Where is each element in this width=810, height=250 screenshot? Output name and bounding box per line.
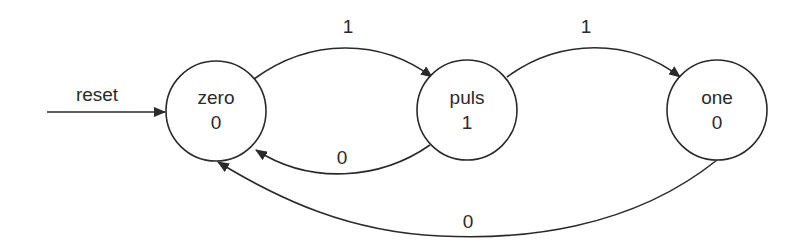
reset-arrow: reset xyxy=(47,84,165,112)
transition-puls-to-one: 1 xyxy=(507,16,680,77)
state-name-puls: puls xyxy=(450,87,485,108)
state-output-puls: 1 xyxy=(462,112,473,133)
transition-label-zero-puls: 1 xyxy=(343,16,354,37)
transition-zero-to-puls: 1 xyxy=(254,16,432,79)
state-output-zero: 0 xyxy=(211,112,222,133)
state-diagram: reset 1 1 0 0 zero 0 puls 1 one 0 xyxy=(0,0,810,250)
state-zero: zero 0 xyxy=(166,61,266,161)
transition-label-puls-zero: 0 xyxy=(337,147,348,168)
reset-label: reset xyxy=(76,84,119,105)
transition-puls-to-zero: 0 xyxy=(256,145,430,174)
state-name-zero: zero xyxy=(198,87,235,108)
state-name-one: one xyxy=(701,87,733,108)
transition-label-one-zero: 0 xyxy=(463,211,474,232)
state-one: one 0 xyxy=(667,60,767,160)
transition-one-to-zero: 0 xyxy=(218,160,717,237)
transition-label-puls-one: 1 xyxy=(581,16,592,37)
state-output-one: 0 xyxy=(712,112,723,133)
state-puls: puls 1 xyxy=(417,60,517,160)
